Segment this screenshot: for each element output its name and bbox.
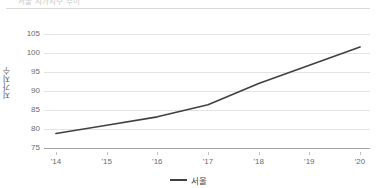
legend-label: 서울: [191, 174, 207, 186]
x-tick-mark: [208, 152, 209, 155]
y-tick-label: 75: [18, 144, 40, 152]
x-tick-mark: [259, 152, 260, 155]
x-tick-mark: [56, 152, 57, 155]
legend-item-seoul: 서울: [170, 174, 207, 186]
x-axis-tick-labels: '14'15'16'17'18'19'20: [44, 152, 370, 170]
x-tick-mark: [360, 152, 361, 155]
y-tick-label: 80: [18, 125, 40, 133]
x-tick-label: '17: [203, 157, 213, 166]
y-tick-label: 100: [18, 49, 40, 57]
y-tick-label: 90: [18, 87, 40, 95]
x-tick-mark: [309, 152, 310, 155]
plot-area: 지가지수 105 100 95 90 85 80 75 '14'15'16'17…: [0, 9, 376, 188]
x-tick-label: '20: [355, 157, 365, 166]
x-tick-label: '18: [253, 157, 263, 166]
chart-title-clipped: 서울 지가지수 추이: [18, 0, 80, 6]
x-tick-label: '15: [101, 157, 111, 166]
chart-header-strip: 서울 지가지수 추이: [0, 0, 376, 9]
series-line-seoul: [44, 9, 370, 152]
y-tick-label: 85: [18, 106, 40, 114]
x-tick-mark: [107, 152, 108, 155]
y-tick-label: 105: [18, 30, 40, 38]
x-tick-mark: [157, 152, 158, 155]
x-tick-label: '19: [304, 157, 314, 166]
legend-line-swatch-icon: [170, 179, 187, 181]
x-tick-label: '16: [152, 157, 162, 166]
y-axis-title: 지가지수: [1, 67, 15, 99]
y-tick-label: 95: [18, 68, 40, 76]
x-tick-label: '14: [51, 157, 61, 166]
grid-and-series: [44, 9, 370, 152]
y-axis-tick-labels: 105 100 95 90 85 80 75: [16, 9, 40, 188]
line-chart-card: 서울 지가지수 추이 지가지수 105 100 95 90 85 80 75 '…: [0, 0, 376, 188]
chart-legend: 서울: [0, 172, 376, 188]
